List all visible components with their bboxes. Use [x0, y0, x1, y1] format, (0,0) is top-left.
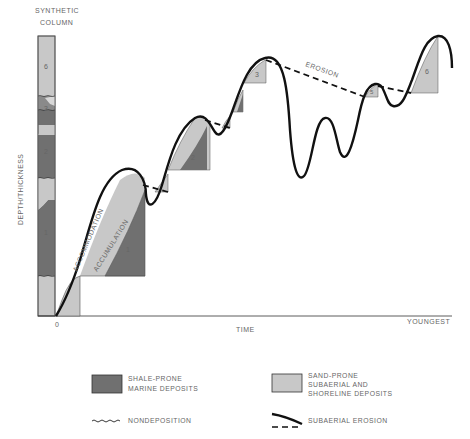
accommodation-diagram: 6 3 2 1	[0, 0, 470, 439]
legend-sand-swatch	[272, 374, 302, 392]
wedge-1-label: 1	[126, 246, 130, 253]
column-title-line1: SYNTHETIC	[35, 7, 79, 14]
column-title-line2: COLUMN	[40, 19, 73, 26]
legend-sand-line2: SUBAERIAL AND	[308, 381, 368, 388]
erosion-surfaces	[143, 60, 411, 192]
subaerial-erosion-icon	[272, 414, 302, 427]
nondeposition-icon	[92, 420, 120, 422]
x-end-label: YOUNGEST	[407, 318, 451, 325]
y-axis-label: DEPTH/THICKNESS	[17, 154, 24, 225]
legend-shale-swatch	[92, 375, 122, 393]
synthetic-column: 6 3 2 1	[38, 36, 55, 316]
column-unit-3-label: 3	[44, 105, 48, 112]
column-unit-2-label: 2	[44, 148, 48, 155]
legend-nondeposition: NONDEPOSITION	[128, 417, 192, 424]
erosion-label: EROSION	[305, 60, 340, 79]
legend-shale-line1: SHALE-PRONE	[128, 375, 182, 382]
legend-subaerial-erosion: SUBAERIAL EROSION	[308, 417, 388, 424]
wedge-6-sand	[411, 36, 438, 93]
wedge-6-label: 6	[425, 68, 429, 75]
column-unit-1-label: 1	[44, 229, 48, 236]
legend-sand-line1: SAND-PRONE	[308, 372, 358, 379]
wedge-2-label: 2	[191, 154, 195, 161]
wedge-3-label: 3	[255, 71, 259, 78]
legend-sand-line3: SHORELINE DEPOSITS	[308, 390, 393, 397]
column-unit-6-label: 6	[44, 63, 48, 70]
diagram-canvas: 6 3 2 1	[0, 0, 470, 439]
x-axis-label: TIME	[236, 326, 255, 333]
wedge-5-label: 5	[370, 89, 374, 95]
x-origin-label: 0	[55, 321, 59, 328]
legend: SHALE-PRONE MARINE DEPOSITS SAND-PRONE S…	[92, 372, 393, 427]
legend-shale-line2: MARINE DEPOSITS	[128, 385, 198, 392]
